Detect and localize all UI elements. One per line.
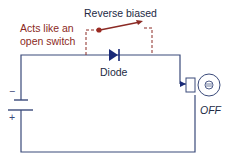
diode-triangle bbox=[109, 49, 118, 61]
battery-minus-label: − bbox=[9, 85, 15, 97]
lamp-bulb-icon bbox=[198, 74, 220, 96]
switch-arrowhead bbox=[136, 20, 143, 25]
reverse-biased-label: Reverse biased bbox=[84, 7, 157, 19]
switch-dashed-right bbox=[144, 28, 152, 55]
annotation-line2: open switch bbox=[20, 35, 76, 47]
circuit-diagram: Reverse biased Acts like an open switch … bbox=[0, 0, 233, 165]
switch-blade bbox=[100, 22, 140, 30]
lamp-state-label: OFF bbox=[200, 104, 222, 116]
battery-plus-label: + bbox=[9, 111, 15, 123]
lamp-socket bbox=[186, 78, 195, 92]
annotation-line1: Acts like an bbox=[20, 22, 74, 34]
switch-pivot-dot bbox=[96, 27, 101, 32]
lamp-base-contact bbox=[180, 81, 186, 87]
diode-label: Diode bbox=[100, 66, 128, 78]
wire-right-bottom bbox=[21, 95, 195, 152]
switch-dashed-left bbox=[86, 30, 100, 55]
